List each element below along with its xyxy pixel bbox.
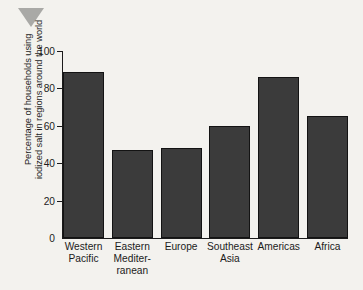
x-label-eastern-mediterranean: Eastern Mediter- ranean: [108, 241, 156, 278]
y-tick-mark: [57, 88, 62, 89]
bar-slot: [209, 51, 250, 238]
y-tick-mark: [57, 201, 62, 202]
bar-africa: [307, 116, 348, 238]
x-label-europe: Europe: [157, 241, 205, 278]
y-tick-mark: [57, 126, 62, 127]
y-tick-mark: [57, 163, 62, 164]
x-label-southeast-asia: Southeast Asia: [206, 241, 254, 278]
y-axis-title: Percentage of households using iodized s…: [23, 0, 46, 199]
bar-southeast-asia: [209, 126, 250, 238]
y-tick-label: 100: [38, 46, 55, 57]
y-axis-title-line-1: Percentage of households using: [23, 0, 34, 199]
bar-europe: [161, 148, 202, 238]
y-tick-mark: [57, 51, 62, 52]
y-axis-title-line-2: iodized salt in regions around the world: [34, 0, 45, 199]
x-label-western-pacific: Western Pacific: [60, 241, 108, 278]
x-label-americas: Americas: [255, 241, 303, 278]
x-label-africa: Africa: [303, 241, 351, 278]
y-tick-label: 20: [44, 195, 55, 206]
bar-americas: [258, 77, 299, 238]
bar-chart-figure: Percentage of households using iodized s…: [0, 0, 363, 290]
bar-series: [63, 51, 348, 238]
bar-western-pacific: [63, 72, 104, 238]
bar-slot: [112, 51, 153, 238]
y-tick-label: 60: [44, 120, 55, 131]
y-tick-label: 0: [49, 233, 55, 244]
bar-slot: [307, 51, 348, 238]
x-axis-labels: Western Pacific Eastern Mediter- ranean …: [63, 241, 348, 278]
y-tick-label: 40: [44, 158, 55, 169]
bar-slot: [161, 51, 202, 238]
plot-area: 100 80 60 40 20 0: [62, 51, 348, 238]
bar-slot: [63, 51, 104, 238]
bar-slot: [258, 51, 299, 238]
bar-eastern-mediterranean: [112, 150, 153, 238]
x-axis-line: [62, 238, 348, 239]
y-tick-label: 80: [44, 83, 55, 94]
